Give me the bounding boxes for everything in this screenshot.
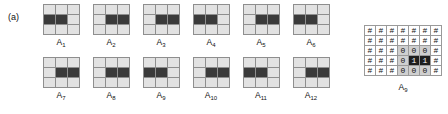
pattern-cell-r2-c3: [318, 15, 329, 24]
char-cell-r2-c6: #: [420, 36, 430, 45]
char-cell-r2-c4: #: [398, 36, 408, 45]
char-cell-r5-c5: 0: [409, 66, 419, 75]
figure-container: (a) A1A2A3A4A5A6 A7A8A9A10A11A12 b) ####…: [0, 0, 448, 114]
pattern-cell-r2-c1: [294, 68, 305, 77]
pattern-item-A5: A5: [236, 4, 286, 47]
pattern-cell-r2-c1: [144, 15, 155, 24]
pattern-cell-r2-c1: [194, 68, 205, 77]
pattern-cell-r1-c3: [318, 5, 329, 14]
pattern-label-A7: A7: [56, 91, 65, 100]
pattern-cell-r1-c1: [44, 5, 55, 14]
pattern-cell-r1-c2: [306, 58, 317, 67]
pattern-cell-r2-c2: [156, 68, 167, 77]
char-cell-r4-c3: #: [387, 56, 397, 65]
pattern-grid-A3: [143, 4, 180, 35]
char-cell-r1-c7: #: [431, 26, 441, 35]
pattern-item-A9: A9: [136, 57, 186, 100]
char-cell-r5-c7: #: [431, 66, 441, 75]
pattern-cell-r1-c3: [218, 58, 229, 67]
pattern-cell-r3-c1: [144, 78, 155, 87]
pattern-cell-r3-c3: [118, 78, 129, 87]
pattern-cell-r3-c2: [256, 78, 267, 87]
pattern-item-A11: A11: [236, 57, 286, 100]
pattern-cell-r3-c3: [318, 78, 329, 87]
pattern-cell-r2-c3: [118, 15, 129, 24]
pattern-cell-r1-c1: [94, 58, 105, 67]
char-cell-r2-c5: #: [409, 36, 419, 45]
pattern-cell-r1-c1: [144, 5, 155, 14]
pattern-cell-r3-c3: [118, 25, 129, 34]
pattern-cell-r1-c2: [256, 58, 267, 67]
pattern-cell-r2-c2: [256, 68, 267, 77]
pattern-cell-r2-c2: [256, 15, 267, 24]
pattern-cell-r3-c1: [294, 78, 305, 87]
pattern-label-A6: A6: [306, 38, 315, 47]
pattern-item-A4: A4: [186, 4, 236, 47]
char-cell-r1-c3: #: [387, 26, 397, 35]
char-cell-r3-c2: #: [376, 46, 386, 55]
pattern-cell-r3-c1: [94, 78, 105, 87]
pattern-grid-A9: [143, 57, 180, 88]
pattern-cell-r3-c1: [244, 25, 255, 34]
pattern-cell-r3-c1: [194, 25, 205, 34]
pattern-label-A8: A8: [106, 91, 115, 100]
pattern-cell-r1-c2: [56, 58, 67, 67]
pattern-cell-r3-c3: [168, 25, 179, 34]
char-cell-r4-c4: 0: [398, 56, 408, 65]
pattern-row-top: A1A2A3A4A5A6: [36, 4, 336, 47]
pattern-label-A4: A4: [206, 38, 215, 47]
pattern-cell-r1-c3: [218, 5, 229, 14]
pattern-grid-A4: [193, 4, 230, 35]
pattern-cell-r1-c1: [194, 58, 205, 67]
char-cell-r3-c3: #: [387, 46, 397, 55]
pattern-grid-A6: [293, 4, 330, 35]
pattern-cell-r3-c2: [106, 78, 117, 87]
char-cell-r5-c2: #: [376, 66, 386, 75]
pattern-cell-r1-c2: [306, 5, 317, 14]
pattern-grid-A8: [93, 57, 130, 88]
pattern-cell-r2-c2: [206, 15, 217, 24]
pattern-grid-A5: [243, 4, 280, 35]
pattern-cell-r2-c1: [244, 68, 255, 77]
char-cell-r2-c1: #: [365, 36, 375, 45]
pattern-cell-r2-c2: [106, 15, 117, 24]
pattern-cell-r3-c1: [294, 25, 305, 34]
pattern-cell-r3-c2: [206, 25, 217, 34]
char-cell-r5-c1: #: [365, 66, 375, 75]
pattern-cell-r3-c3: [268, 78, 279, 87]
char-matrix-wrapper: #################000####011####000# A9: [364, 25, 442, 92]
pattern-cell-r1-c1: [294, 58, 305, 67]
pattern-cell-r1-c1: [244, 5, 255, 14]
pattern-cell-r1-c1: [94, 5, 105, 14]
char-cell-r1-c4: #: [398, 26, 408, 35]
char-cell-r2-c3: #: [387, 36, 397, 45]
char-cell-r3-c6: 0: [420, 46, 430, 55]
pattern-cell-r1-c3: [268, 5, 279, 14]
pattern-grid-A7: [43, 57, 80, 88]
pattern-grid-A2: [93, 4, 130, 35]
char-cell-r5-c3: #: [387, 66, 397, 75]
pattern-cell-r3-c2: [306, 78, 317, 87]
pattern-cell-r1-c1: [244, 58, 255, 67]
pattern-label-A1: A1: [56, 38, 65, 47]
pattern-cell-r3-c1: [94, 25, 105, 34]
pattern-cell-r2-c1: [194, 15, 205, 24]
pattern-cell-r2-c2: [306, 68, 317, 77]
pattern-grid-A10: [193, 57, 230, 88]
pattern-cell-r2-c1: [44, 15, 55, 24]
pattern-cell-r1-c3: [118, 58, 129, 67]
pattern-cell-r1-c2: [206, 5, 217, 14]
pattern-cell-r2-c2: [206, 68, 217, 77]
pattern-cell-r3-c2: [56, 25, 67, 34]
pattern-cell-r2-c3: [68, 15, 79, 24]
pattern-item-A8: A8: [86, 57, 136, 100]
char-cell-r1-c5: #: [409, 26, 419, 35]
char-cell-r3-c1: #: [365, 46, 375, 55]
char-cell-r4-c2: #: [376, 56, 386, 65]
pattern-label-A5: A5: [256, 38, 265, 47]
pattern-cell-r2-c3: [218, 15, 229, 24]
pattern-cell-r1-c2: [156, 58, 167, 67]
pattern-cell-r3-c2: [306, 25, 317, 34]
char-cell-r3-c7: #: [431, 46, 441, 55]
pattern-cell-r3-c2: [56, 78, 67, 87]
